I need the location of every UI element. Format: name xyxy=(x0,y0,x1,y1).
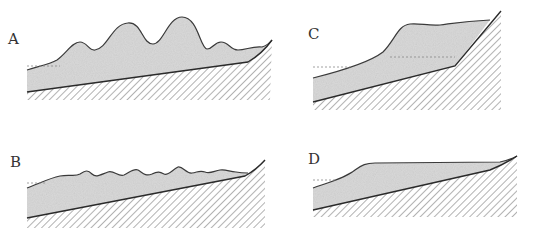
diagram-canvas: A C B D xyxy=(0,0,534,237)
panel-a: A xyxy=(7,17,272,100)
panel-b: B xyxy=(10,153,265,228)
panel-c: C xyxy=(308,11,501,110)
panel-d: D xyxy=(308,150,517,217)
panel-label-a: A xyxy=(7,30,19,48)
panel-label-c: C xyxy=(308,25,319,43)
panel-label-d: D xyxy=(308,150,320,168)
panel-label-b: B xyxy=(10,153,21,171)
